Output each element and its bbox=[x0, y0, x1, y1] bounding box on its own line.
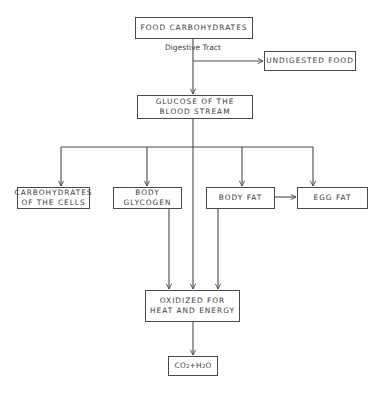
co2-text: CO bbox=[174, 361, 186, 371]
node-glucose-blood-stream: GLUCOSE OF THE BLOOD STREAM bbox=[137, 95, 253, 119]
node-food-carbohydrates: FOOD CARBOHYDRATES bbox=[135, 17, 253, 39]
node-oxidized-heat-energy: OXIDIZED FOR HEAT AND ENERGY bbox=[145, 290, 240, 322]
plus-h-text: +H bbox=[190, 361, 202, 371]
node-carbohydrates-of-cells: CARBOHYDRATES OF THE CELLS bbox=[17, 187, 90, 209]
node-undigested-food: UNDIGESTED FOOD bbox=[264, 51, 356, 71]
node-co2-h2o: CO2 +H2O bbox=[168, 356, 218, 376]
o-text: O bbox=[205, 361, 211, 371]
node-body-fat: BODY FAT bbox=[206, 187, 275, 209]
node-egg-fat: EGG FAT bbox=[297, 187, 368, 209]
node-body-glycogen: BODY GLYCOGEN bbox=[113, 187, 182, 209]
edge-label-digestive-tract: Digestive Tract bbox=[165, 43, 221, 52]
